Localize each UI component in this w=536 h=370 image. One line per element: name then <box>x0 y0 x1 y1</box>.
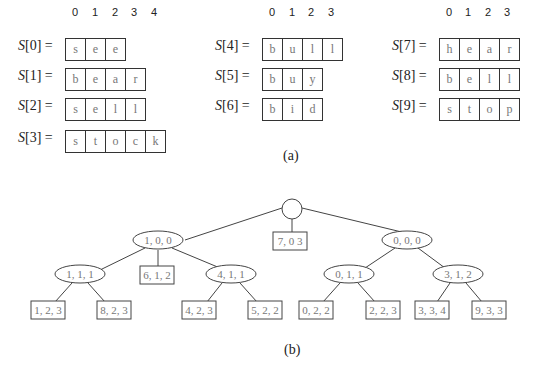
internal-node-label: 3, 1, 2 <box>444 268 472 280</box>
leaf-label: 7, 0 3 <box>278 235 303 247</box>
leaf-label: 9, 3, 3 <box>475 304 503 316</box>
leaf-label: 6, 1, 2 <box>143 269 171 281</box>
trie-edges <box>55 208 482 302</box>
leaf-label: 1, 2, 3 <box>34 304 62 316</box>
internal-node-label: 1, 1, 1 <box>66 268 94 280</box>
internal-node-label: 1, 0, 0 <box>144 234 172 246</box>
leaf-label: 8, 2, 3 <box>100 304 128 316</box>
internal-node-label: 4, 1, 1 <box>217 268 245 280</box>
leaf-label: 0, 2, 2 <box>302 304 330 316</box>
leaf-label: 5, 2, 2 <box>251 304 279 316</box>
trie-diagram: 1, 0, 0 0, 0, 0 1, 1, 1 4, 1, 1 0, 1, 1 … <box>0 0 536 370</box>
internal-node-label: 0, 1, 1 <box>335 268 363 280</box>
leaf-label: 3, 3, 4 <box>418 304 446 316</box>
leaf-label: 4, 2, 3 <box>185 304 213 316</box>
caption-b: (b) <box>284 342 300 358</box>
internal-node-label: 0, 0, 0 <box>393 234 421 246</box>
trie-root-node <box>282 199 302 219</box>
leaf-label: 2, 2, 3 <box>369 304 397 316</box>
